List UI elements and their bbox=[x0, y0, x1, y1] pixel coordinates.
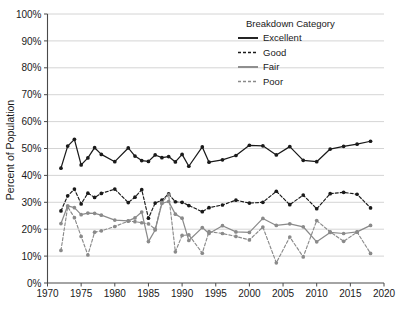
legend-label-poor: Poor bbox=[263, 76, 283, 87]
data-point bbox=[79, 235, 83, 239]
data-point bbox=[274, 153, 278, 157]
y-tick-label-40: 40% bbox=[21, 170, 41, 181]
data-point bbox=[274, 224, 278, 228]
data-series-group bbox=[59, 138, 372, 265]
data-point bbox=[221, 232, 225, 236]
series-excellent bbox=[59, 138, 372, 170]
x-tick-label-2000: 2000 bbox=[238, 288, 261, 299]
data-point bbox=[160, 156, 164, 160]
data-point bbox=[79, 202, 83, 206]
data-point bbox=[274, 261, 278, 265]
data-point bbox=[180, 153, 184, 157]
chart-container: 0%10%20%30%40%50%60%70%80%90%100% 197019… bbox=[0, 0, 402, 310]
data-point bbox=[187, 164, 191, 168]
data-point bbox=[261, 217, 265, 221]
data-point bbox=[79, 163, 83, 167]
data-point bbox=[140, 188, 144, 192]
legend-item-poor[interactable]: Poor bbox=[238, 76, 283, 87]
data-point bbox=[355, 230, 359, 234]
data-point bbox=[234, 230, 238, 234]
line-chart: 0%10%20%30%40%50%60%70%80%90%100% 197019… bbox=[0, 0, 402, 310]
data-point bbox=[93, 211, 97, 215]
data-point bbox=[221, 224, 225, 228]
data-point bbox=[86, 156, 90, 160]
series-fair bbox=[59, 200, 372, 244]
data-point bbox=[369, 206, 373, 210]
x-tick-label-2010: 2010 bbox=[306, 288, 329, 299]
x-tick-label-1985: 1985 bbox=[137, 288, 160, 299]
data-point bbox=[66, 194, 70, 198]
data-point bbox=[248, 238, 252, 242]
data-point bbox=[234, 154, 238, 158]
data-point bbox=[342, 191, 346, 195]
y-tick-label-100: 100% bbox=[16, 9, 42, 20]
data-point bbox=[261, 225, 265, 229]
data-point bbox=[221, 203, 225, 207]
data-point bbox=[288, 145, 292, 149]
data-point bbox=[174, 160, 178, 164]
x-tick-label-2015: 2015 bbox=[339, 288, 362, 299]
data-point bbox=[234, 235, 238, 239]
data-point bbox=[113, 160, 117, 164]
y-axis-title: Percent of Population bbox=[4, 100, 16, 201]
y-axis-title-group: Percent of Population bbox=[4, 100, 16, 201]
data-point bbox=[200, 251, 204, 255]
data-point bbox=[73, 138, 77, 142]
y-tick-label-30: 30% bbox=[21, 197, 41, 208]
data-point bbox=[328, 230, 332, 234]
data-point bbox=[207, 206, 211, 210]
x-tick-label-1975: 1975 bbox=[70, 288, 93, 299]
data-point bbox=[113, 187, 117, 191]
data-point bbox=[180, 200, 184, 204]
data-point bbox=[140, 210, 144, 214]
data-point bbox=[248, 231, 252, 235]
data-point bbox=[113, 218, 117, 222]
data-point bbox=[315, 207, 319, 211]
data-point bbox=[274, 189, 278, 193]
data-point bbox=[59, 249, 63, 253]
data-point bbox=[200, 145, 204, 149]
data-point bbox=[301, 255, 305, 259]
x-tick-label-1970: 1970 bbox=[36, 288, 59, 299]
y-tick-label-60: 60% bbox=[21, 116, 41, 127]
series-line-good bbox=[61, 189, 371, 218]
legend-label-fair: Fair bbox=[263, 61, 279, 72]
data-point bbox=[200, 210, 204, 214]
data-point bbox=[147, 222, 151, 226]
data-point bbox=[187, 204, 191, 208]
data-point bbox=[167, 155, 171, 159]
data-point bbox=[66, 205, 70, 209]
legend-item-excellent[interactable]: Excellent bbox=[238, 32, 302, 43]
legend-item-good[interactable]: Good bbox=[238, 47, 286, 58]
legend-title: Breakdown Category bbox=[246, 18, 335, 29]
data-point bbox=[79, 213, 83, 217]
series-line-fair bbox=[61, 201, 371, 241]
data-point bbox=[369, 139, 373, 143]
data-point bbox=[248, 201, 252, 205]
data-point bbox=[99, 213, 103, 217]
data-point bbox=[369, 252, 373, 256]
y-tick-label-70: 70% bbox=[21, 89, 41, 100]
data-point bbox=[147, 240, 151, 244]
data-point bbox=[86, 211, 90, 215]
data-point bbox=[99, 229, 103, 233]
data-point bbox=[174, 250, 178, 254]
x-axis: 1970197519801985199019952000200520102015… bbox=[36, 283, 395, 299]
data-point bbox=[200, 226, 204, 230]
x-tick-label-2005: 2005 bbox=[272, 288, 295, 299]
legend-item-fair[interactable]: Fair bbox=[238, 61, 279, 72]
y-axis: 0%10%20%30%40%50%60%70%80%90%100% bbox=[16, 9, 48, 289]
data-point bbox=[133, 216, 137, 220]
data-point bbox=[248, 143, 252, 147]
series-line-poor bbox=[61, 195, 371, 263]
legend-label-good: Good bbox=[263, 47, 286, 58]
data-point bbox=[234, 198, 238, 202]
data-point bbox=[147, 160, 151, 164]
x-tick-label-1995: 1995 bbox=[205, 288, 228, 299]
data-point bbox=[167, 193, 171, 197]
data-point bbox=[174, 200, 178, 204]
data-point bbox=[133, 220, 137, 224]
data-point bbox=[261, 144, 265, 148]
data-point bbox=[288, 235, 292, 239]
data-point bbox=[59, 209, 63, 213]
